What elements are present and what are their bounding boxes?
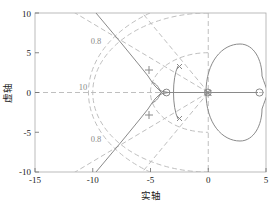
root-locus-figure: 0.8 0.8 10 -15 -10 -5 0 5 10 5 0 -5 -10 … xyxy=(0,0,277,209)
y-tick-label: 5 xyxy=(27,48,32,58)
y-tick-label: -10 xyxy=(19,167,31,177)
y-tick-label: 0 xyxy=(27,88,32,98)
y-tick-label: 10 xyxy=(22,9,32,19)
x-tick-label: -5 xyxy=(147,175,155,185)
figure-background xyxy=(0,0,277,209)
x-axis-title: 实轴 xyxy=(141,190,161,201)
x-tick-label: -10 xyxy=(87,175,99,185)
x-tick-label: 0 xyxy=(206,175,211,185)
damping-label-lower: 0.8 xyxy=(91,134,102,144)
x-tick-label: 5 xyxy=(264,175,269,185)
y-axis-title: 虚轴 xyxy=(2,83,13,103)
root-locus-plot: 0.8 0.8 10 -15 -10 -5 0 5 10 5 0 -5 -10 … xyxy=(0,0,277,209)
natural-frequency-label: 10 xyxy=(79,82,88,92)
damping-label-upper: 0.8 xyxy=(91,36,102,46)
y-tick-label: -5 xyxy=(24,128,32,138)
